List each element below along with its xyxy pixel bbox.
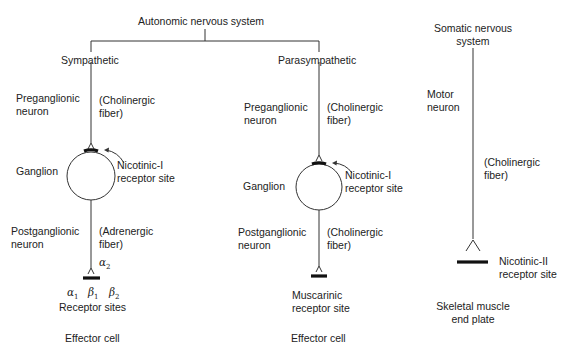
parasympathetic-preganglionic-label: Preganglionic neuron <box>244 101 308 127</box>
somatic-endplate-label: Skeletal muscle end plate <box>423 300 523 326</box>
parasympathetic-post-fiber-label: (Cholinergic fiber) <box>327 226 383 252</box>
sympathetic-ganglion-circle <box>67 152 115 200</box>
somatic-title: Somatic nervous system <box>428 22 518 48</box>
parasympathetic-ganglion-label: Ganglion <box>243 180 285 193</box>
sympathetic-nicotinic-label: Nicotinic-I receptor site <box>117 159 175 185</box>
parasympathetic-effector-label: Effector cell <box>291 332 346 345</box>
somatic-motor-neuron-label: Motor neuron <box>427 88 460 114</box>
parasympathetic-pre-terminal-icon <box>316 155 322 161</box>
sympathetic-ganglion-label: Ganglion <box>16 165 58 178</box>
somatic-fiber-label: (Cholinergic fiber) <box>484 156 540 182</box>
sympathetic-arrowhead-icon <box>104 148 109 153</box>
somatic-nicotinic-ii-label: Nicotinic-II receptor site <box>499 255 557 281</box>
sympathetic-post-fiber-label: (Adrenergic fiber) <box>99 225 153 251</box>
sympathetic-post-terminal-icon <box>88 268 94 274</box>
parasympathetic-ganglion-circle <box>296 164 342 210</box>
autonomic-title: Autonomic nervous system <box>138 15 264 28</box>
parasympathetic-nicotinic-label: Nicotinic-I receptor site <box>345 169 403 195</box>
receptor-alpha2-label: α2 <box>99 256 111 274</box>
somatic-terminal-icon <box>466 240 480 251</box>
sympathetic-title: Sympathetic <box>61 54 119 67</box>
parasympathetic-muscarinic-label: Muscarinic receptor site <box>292 289 350 315</box>
parasympathetic-nicotinic-receptor-bar <box>312 163 326 164</box>
sympathetic-postganglionic-label: Postganglionic neuron <box>11 225 79 251</box>
parasympathetic-arrowhead-icon <box>332 161 337 166</box>
sympathetic-effector-label: Effector cell <box>65 332 120 345</box>
parasympathetic-title: Parasympathetic <box>278 54 356 67</box>
parasympathetic-pre-fiber-label: (Cholinergic fiber) <box>327 101 383 127</box>
parasympathetic-post-terminal-icon <box>316 266 322 272</box>
sympathetic-preganglionic-label: Preganglionic neuron <box>16 92 80 118</box>
sympathetic-nicotinic-receptor-bar <box>84 150 98 151</box>
sympathetic-pre-terminal-icon <box>88 143 94 149</box>
sympathetic-pre-fiber-label: (Cholinergic fiber) <box>99 94 155 120</box>
sympathetic-receptor-sites-label: Receptor sites <box>59 301 126 314</box>
parasympathetic-postganglionic-label: Postganglionic neuron <box>238 226 306 252</box>
